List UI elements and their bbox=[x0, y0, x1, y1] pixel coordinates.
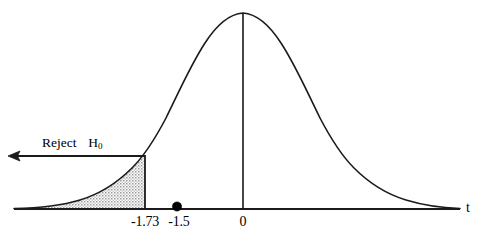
diagram-canvas bbox=[0, 0, 487, 246]
distribution-curve bbox=[14, 13, 460, 209]
tick-label-critical-value: -1.73 bbox=[131, 215, 159, 229]
null-hypothesis-subscript: 0 bbox=[98, 141, 103, 151]
null-hypothesis-symbol: H bbox=[88, 135, 98, 150]
tick-label-test-statistic: -1.5 bbox=[168, 215, 189, 229]
reject-word: Reject bbox=[42, 135, 76, 150]
test-statistic-dot bbox=[172, 202, 181, 211]
reject-region-label: Reject H0 bbox=[42, 136, 102, 150]
t-distribution-diagram: Reject H0 -1.73 -1.5 0 t bbox=[0, 0, 487, 246]
tick-label-center: 0 bbox=[240, 215, 247, 229]
axis-name-label: t bbox=[466, 201, 470, 215]
